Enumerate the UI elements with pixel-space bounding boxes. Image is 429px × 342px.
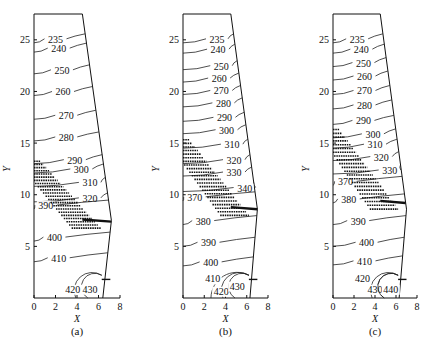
contour-line bbox=[34, 137, 55, 141]
contour-line bbox=[220, 237, 256, 242]
contour-line bbox=[183, 66, 210, 70]
contour-label: 400 bbox=[203, 257, 218, 268]
contour-line bbox=[183, 49, 207, 53]
contour-line bbox=[368, 34, 383, 39]
contour-line bbox=[386, 139, 397, 144]
x-tick-label: 4 bbox=[75, 301, 80, 312]
x-tick-label: 8 bbox=[266, 301, 271, 312]
contour-line bbox=[235, 112, 244, 117]
x-tick-label: 6 bbox=[394, 301, 399, 312]
contour-label: 430 bbox=[368, 284, 383, 295]
contour-line bbox=[392, 152, 398, 157]
x-tick-label: 8 bbox=[118, 301, 123, 312]
contour-label: 410 bbox=[205, 273, 220, 284]
contour-line bbox=[183, 103, 212, 107]
contour-line bbox=[183, 262, 200, 266]
contour-label: 380 bbox=[196, 216, 211, 227]
contour-label: 250 bbox=[54, 65, 69, 76]
y-tick-label: 15 bbox=[319, 138, 329, 149]
contour-line bbox=[228, 34, 233, 39]
contour-label: 430 bbox=[82, 284, 97, 295]
panel-caption: (a) bbox=[71, 325, 84, 338]
x-tick-label: 0 bbox=[331, 301, 336, 312]
contour-line bbox=[92, 164, 103, 169]
contour-line bbox=[376, 256, 403, 261]
contour-line bbox=[245, 155, 250, 160]
contour-line bbox=[183, 172, 223, 176]
contour-line bbox=[77, 132, 99, 137]
contour-label: 260 bbox=[56, 86, 71, 97]
contour-line bbox=[183, 39, 206, 43]
contour-figure: 02468510152025XY(a)235240250260270280290… bbox=[0, 0, 429, 342]
contour-label: 300 bbox=[219, 125, 234, 136]
contour-label: 300 bbox=[74, 164, 89, 175]
contour-line bbox=[230, 73, 239, 78]
contour-line bbox=[333, 199, 338, 203]
contour-line bbox=[183, 130, 216, 134]
contour-label: 440 bbox=[383, 284, 398, 295]
contour-line bbox=[34, 91, 52, 95]
y-tick-label: 25 bbox=[20, 34, 30, 45]
contour-label: 270 bbox=[214, 85, 229, 96]
y-axis-title: Y bbox=[300, 165, 311, 172]
contour-label: 410 bbox=[51, 253, 66, 264]
contour-line bbox=[77, 110, 96, 115]
contour-label: 290 bbox=[217, 112, 232, 123]
contour-line bbox=[70, 253, 108, 258]
panel-caption: (b) bbox=[219, 325, 232, 338]
contour-label: 330 bbox=[382, 165, 397, 176]
contour-line bbox=[333, 261, 354, 265]
contour-line bbox=[374, 115, 393, 120]
x-tick-label: 2 bbox=[53, 301, 58, 312]
contour-line bbox=[183, 90, 210, 94]
contour-line bbox=[376, 100, 392, 105]
contour-line bbox=[229, 44, 235, 49]
y-tick-label: 20 bbox=[20, 86, 30, 97]
x-tick-label: 6 bbox=[96, 301, 101, 312]
x-tick-label: 2 bbox=[352, 301, 357, 312]
x-tick-label: 0 bbox=[181, 301, 186, 312]
contour-label: 310 bbox=[82, 177, 97, 188]
contour-label: 250 bbox=[214, 61, 229, 72]
contour-line bbox=[376, 85, 390, 90]
contour-label: 400 bbox=[359, 237, 374, 248]
contour-label: 420 bbox=[214, 286, 229, 297]
contour-label: 240 bbox=[211, 44, 226, 55]
x-tick-label: 6 bbox=[244, 301, 249, 312]
y-tick-label: 10 bbox=[20, 189, 30, 200]
contour-label: 280 bbox=[59, 132, 74, 143]
contour-line bbox=[34, 237, 43, 241]
contour-line bbox=[372, 44, 384, 49]
x-axis-title: X bbox=[221, 313, 229, 324]
contour-line bbox=[183, 117, 213, 121]
contour-line bbox=[34, 48, 48, 52]
x-tick-label: 2 bbox=[202, 301, 207, 312]
contour-line bbox=[101, 193, 108, 198]
contour-line bbox=[214, 216, 257, 221]
contour-line bbox=[333, 134, 362, 138]
contour-line bbox=[376, 71, 388, 76]
contour-label: 430 bbox=[230, 281, 245, 292]
contour-line bbox=[70, 43, 87, 48]
contour-line bbox=[333, 221, 347, 225]
x-tick-label: 0 bbox=[32, 301, 37, 312]
y-tick-label: 25 bbox=[319, 34, 329, 45]
contour-line bbox=[101, 177, 105, 182]
contour-label: 280 bbox=[216, 98, 231, 109]
contour-line bbox=[73, 65, 90, 70]
contour-line bbox=[333, 120, 352, 124]
contour-label: 240 bbox=[51, 43, 66, 54]
x-tick-label: 4 bbox=[223, 301, 228, 312]
contour-label: 390 bbox=[38, 200, 53, 211]
contour-label: 250 bbox=[356, 58, 371, 69]
contour-label: 410 bbox=[357, 256, 372, 267]
contour-line bbox=[34, 258, 48, 262]
contour-line bbox=[183, 78, 208, 82]
y-tick-label: 15 bbox=[20, 138, 30, 149]
y-tick-label: 10 bbox=[319, 189, 329, 200]
contour-line bbox=[333, 242, 356, 246]
y-tick-label: 25 bbox=[169, 34, 179, 45]
y-tick-label: 15 bbox=[169, 138, 179, 149]
contour-label: 260 bbox=[212, 73, 227, 84]
x-tick-label: 4 bbox=[373, 301, 378, 312]
